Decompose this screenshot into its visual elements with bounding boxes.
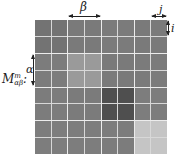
matrix-cell <box>85 54 101 70</box>
i-arrow-icon <box>168 21 169 35</box>
matrix-cell <box>85 121 101 137</box>
matrix-cell <box>68 54 84 70</box>
matrix-cell <box>118 88 134 104</box>
matrix-cell <box>35 20 51 36</box>
matrix-cell <box>151 88 167 104</box>
matrix-cell <box>68 37 84 53</box>
matrix-cell <box>118 54 134 70</box>
matrix-cell <box>52 71 68 87</box>
matrix-cell <box>102 20 118 36</box>
matrix-cell <box>68 20 84 36</box>
matrix-cell <box>85 138 101 154</box>
matrix-cell <box>52 138 68 154</box>
matrix-cell <box>52 88 68 104</box>
matrix-cell <box>102 37 118 53</box>
matrix-cell <box>68 121 84 137</box>
matrix-cell <box>135 138 151 154</box>
matrix-cell <box>118 121 134 137</box>
matrix-cell <box>68 88 84 104</box>
matrix-cell <box>135 54 151 70</box>
matrix-cell <box>35 88 51 104</box>
j-arrow-icon <box>152 16 166 17</box>
matrix-cell <box>35 121 51 137</box>
matrix-cell <box>151 54 167 70</box>
matrix-block <box>102 20 134 53</box>
beta-arrow-icon <box>69 16 100 17</box>
matrix-cell <box>118 20 134 36</box>
matrix-cell <box>118 37 134 53</box>
matrix-cell <box>135 88 151 104</box>
matrix-cell <box>135 71 151 87</box>
matrix-cell <box>85 104 101 120</box>
matrix-block <box>102 121 134 154</box>
matrix-cell <box>151 138 167 154</box>
matrix-block <box>35 121 67 154</box>
matrix-cell <box>151 121 167 137</box>
matrix-cell <box>52 37 68 53</box>
matrix-cell <box>102 138 118 154</box>
matrix-cell <box>151 104 167 120</box>
matrix-cell <box>85 88 101 104</box>
matrix-label-suffix: : <box>23 72 27 86</box>
matrix-cell <box>68 104 84 120</box>
matrix-cell <box>135 121 151 137</box>
matrix-block <box>135 20 167 53</box>
matrix-cell <box>68 138 84 154</box>
matrix-cell <box>135 20 151 36</box>
matrix-cell <box>151 20 167 36</box>
matrix-cell <box>102 54 118 70</box>
matrix-block <box>68 88 100 121</box>
matrix-block <box>135 54 167 87</box>
block-matrix-grid <box>35 20 167 154</box>
matrix-cell <box>118 104 134 120</box>
matrix-cell <box>85 37 101 53</box>
matrix-cell <box>52 121 68 137</box>
matrix-label-subscript: αβ <box>14 80 23 87</box>
matrix-cell <box>102 88 118 104</box>
matrix-block <box>102 54 134 87</box>
matrix-cell <box>118 138 134 154</box>
matrix-cell <box>151 37 167 53</box>
matrix-cell <box>85 71 101 87</box>
matrix-label-base: M <box>2 72 14 86</box>
matrix-cell <box>135 37 151 53</box>
matrix-cell <box>35 71 51 87</box>
matrix-cell <box>151 71 167 87</box>
matrix-block <box>35 54 67 87</box>
matrix-cell <box>35 138 51 154</box>
matrix-cell <box>52 54 68 70</box>
matrix-block <box>135 88 167 121</box>
matrix-block <box>135 121 167 154</box>
matrix-cell <box>118 71 134 87</box>
matrix-cell <box>35 104 51 120</box>
matrix-cell <box>135 104 151 120</box>
matrix-cell <box>35 54 51 70</box>
matrix-cell <box>68 71 84 87</box>
matrix-block <box>68 121 100 154</box>
matrix-cell <box>102 71 118 87</box>
matrix-cell <box>35 37 51 53</box>
beta-label: β <box>80 1 87 13</box>
matrix-block <box>35 88 67 121</box>
matrix-cell <box>102 104 118 120</box>
matrix-block <box>68 20 100 53</box>
matrix-block <box>102 88 134 121</box>
matrix-block <box>68 54 100 87</box>
matrix-label: Mmαβ: <box>2 72 27 87</box>
matrix-cell <box>102 121 118 137</box>
matrix-cell <box>52 104 68 120</box>
matrix-cell <box>52 20 68 36</box>
i-label: i <box>171 23 175 34</box>
matrix-block <box>35 20 67 53</box>
matrix-cell <box>85 20 101 36</box>
